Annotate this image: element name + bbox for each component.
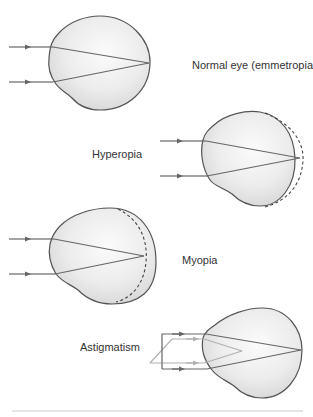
astigmatism-eye-panel — [150, 308, 302, 398]
eyeball-hyperopia — [202, 112, 295, 206]
label-astigmatism: Astigmatism — [80, 341, 140, 354]
label-normal-eye: Normal eye (emmetropia) — [192, 59, 313, 72]
hyperopia-eye-panel — [160, 112, 303, 207]
label-hyperopia: Hyperopia — [92, 148, 142, 161]
label-myopia: Myopia — [182, 254, 217, 267]
eyeball-myopia — [49, 208, 156, 304]
myopia-eye-panel — [9, 208, 156, 304]
eyeball-normal — [49, 16, 150, 110]
normal-eye-panel — [9, 16, 150, 110]
